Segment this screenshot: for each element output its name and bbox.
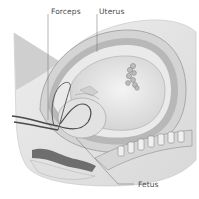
label-uterus: Uterus — [99, 8, 124, 16]
anatomy-illustration — [0, 0, 199, 199]
label-forceps: Forceps — [51, 8, 81, 16]
label-fetus: Fetus — [138, 181, 159, 189]
forceps-delivery-diagram: Forceps Uterus Fetus — [0, 0, 199, 199]
